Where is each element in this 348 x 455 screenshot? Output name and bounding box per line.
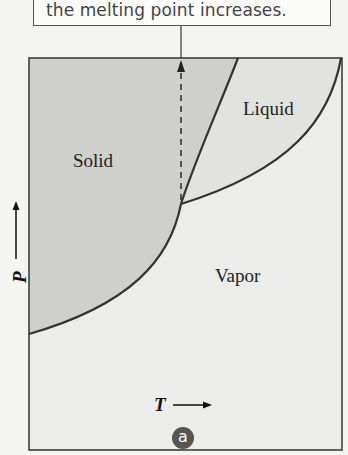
region-label-solid: Solid: [73, 150, 113, 172]
panel-badge: a: [172, 427, 194, 449]
y-axis-label: P: [9, 271, 31, 283]
x-axis-label: T: [154, 394, 166, 416]
region-label-vapor: Vapor: [215, 265, 260, 287]
p-arrowhead-icon: [13, 201, 20, 210]
region-label-liquid: Liquid: [243, 98, 294, 120]
phase-diagram: [0, 0, 348, 455]
